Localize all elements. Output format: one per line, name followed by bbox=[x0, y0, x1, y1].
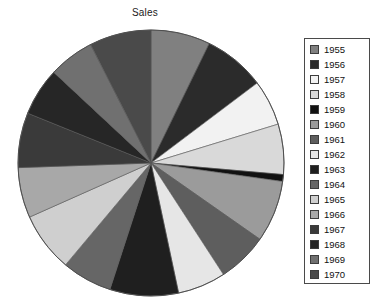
legend-swatch-icon bbox=[310, 150, 319, 159]
legend-item[interactable]: 1965 bbox=[305, 192, 369, 207]
legend-item[interactable]: 1959 bbox=[305, 102, 369, 117]
legend-item-label: 1960 bbox=[324, 120, 345, 130]
legend-item[interactable]: 1960 bbox=[305, 117, 369, 132]
legend-item[interactable]: 1957 bbox=[305, 72, 369, 87]
legend-item-label: 1962 bbox=[324, 150, 345, 160]
legend-swatch-icon bbox=[310, 165, 319, 174]
legend-swatch-icon bbox=[310, 270, 319, 279]
legend-swatch-icon bbox=[310, 90, 319, 99]
legend-item[interactable]: 1967 bbox=[305, 222, 369, 237]
legend-swatch-icon bbox=[310, 135, 319, 144]
legend-swatch-icon bbox=[310, 120, 319, 129]
legend-swatch-icon bbox=[310, 60, 319, 69]
legend-item[interactable]: 1963 bbox=[305, 162, 369, 177]
chart-legend: 1955195619571958195919601961196219631964… bbox=[304, 38, 370, 284]
legend-item-label: 1959 bbox=[324, 105, 345, 115]
legend-item[interactable]: 1958 bbox=[305, 87, 369, 102]
legend-item-label: 1961 bbox=[324, 135, 345, 145]
legend-swatch-icon bbox=[310, 225, 319, 234]
legend-swatch-icon bbox=[310, 105, 319, 114]
legend-item[interactable]: 1968 bbox=[305, 237, 369, 252]
legend-item[interactable]: 1955 bbox=[305, 42, 369, 57]
legend-item[interactable]: 1964 bbox=[305, 177, 369, 192]
legend-item[interactable]: 1956 bbox=[305, 57, 369, 72]
pie-slice-group bbox=[18, 30, 284, 296]
legend-item-label: 1970 bbox=[324, 270, 345, 280]
legend-item-label: 1968 bbox=[324, 240, 345, 250]
legend-swatch-icon bbox=[310, 45, 319, 54]
legend-item-label: 1967 bbox=[324, 225, 345, 235]
legend-item-label: 1964 bbox=[324, 180, 345, 190]
legend-swatch-icon bbox=[310, 75, 319, 84]
legend-item-label: 1963 bbox=[324, 165, 345, 175]
legend-item[interactable]: 1969 bbox=[305, 252, 369, 267]
legend-item-label: 1957 bbox=[324, 75, 345, 85]
legend-item-label: 1966 bbox=[324, 210, 345, 220]
legend-item-label: 1965 bbox=[324, 195, 345, 205]
legend-item[interactable]: 1962 bbox=[305, 147, 369, 162]
legend-swatch-icon bbox=[310, 255, 319, 264]
legend-item[interactable]: 1961 bbox=[305, 132, 369, 147]
legend-item-label: 1955 bbox=[324, 45, 345, 55]
legend-swatch-icon bbox=[310, 240, 319, 249]
legend-swatch-icon bbox=[310, 210, 319, 219]
pie-chart-figure: Sales 1955195619571958195919601961196219… bbox=[0, 0, 374, 305]
legend-item-label: 1956 bbox=[324, 60, 345, 70]
legend-item[interactable]: 1970 bbox=[305, 267, 369, 282]
legend-item[interactable]: 1966 bbox=[305, 207, 369, 222]
legend-swatch-icon bbox=[310, 195, 319, 204]
legend-item-label: 1969 bbox=[324, 255, 345, 265]
legend-item-label: 1958 bbox=[324, 90, 345, 100]
legend-swatch-icon bbox=[310, 180, 319, 189]
